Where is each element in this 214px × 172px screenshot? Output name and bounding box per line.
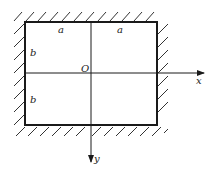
label-a-left: a: [58, 24, 64, 35]
clamped-plate-diagram: a a b b O x y: [0, 0, 214, 172]
label-x-axis: x: [196, 75, 202, 86]
label-b-lower: b: [30, 94, 36, 105]
bottom-edge-hatching: [16, 127, 168, 136]
label-b-upper: b: [30, 47, 36, 58]
label-origin: O: [81, 63, 89, 74]
label-a-right: a: [117, 24, 123, 35]
right-edge-hatching: [158, 24, 168, 112]
top-edge-hatching: [14, 12, 154, 21]
label-y-axis: y: [93, 153, 100, 164]
left-edge-hatching: [14, 24, 24, 125]
